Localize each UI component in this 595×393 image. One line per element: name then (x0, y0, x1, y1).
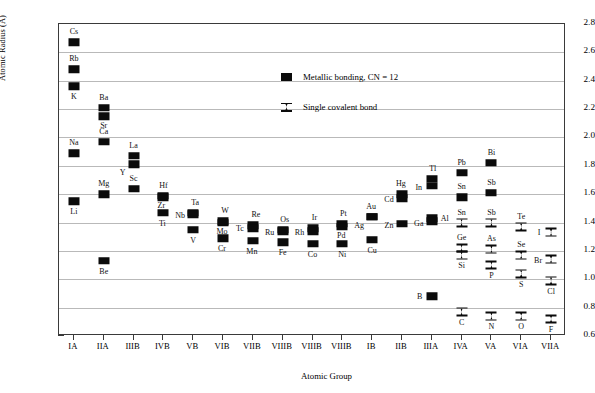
point-label-ru: Ru (265, 229, 274, 237)
data-point-sb (486, 189, 497, 197)
data-point-zn (396, 220, 407, 228)
point-label-se: Se (517, 241, 525, 249)
filled-square-icon (98, 257, 109, 265)
point-label-te: Te (517, 213, 525, 221)
data-point-sc (128, 185, 139, 193)
x-tick-label-ia-0: IA (68, 341, 77, 351)
point-label-ge: Ge (457, 234, 466, 242)
point-label-ca: Ca (99, 128, 108, 136)
data-point-li (68, 198, 79, 206)
point-label-al: Al (441, 215, 449, 223)
point-label-rh: Rh (295, 229, 304, 237)
x-tick-label-viia-16: VIIA (541, 341, 559, 351)
bowtie-icon (516, 251, 527, 260)
x-tick-mark (282, 335, 283, 340)
data-point-ag (367, 213, 378, 221)
point-label-br: Br (534, 257, 542, 265)
point-label-cu: Cu (367, 247, 376, 255)
data-point-sn (456, 218, 467, 227)
gridline (59, 137, 564, 138)
filled-square-icon (218, 234, 229, 242)
y-tick-mark (58, 335, 64, 336)
bowtie-icon (546, 276, 557, 285)
point-label-be: Be (99, 268, 108, 276)
filled-square-icon (307, 240, 318, 248)
filled-square-icon (247, 237, 258, 245)
point-label-na: Na (69, 139, 78, 147)
data-point-mo (218, 219, 229, 227)
filled-square-icon (367, 236, 378, 244)
x-tick-mark (133, 335, 134, 340)
data-point-f (546, 314, 557, 323)
data-point-tc (247, 224, 258, 232)
point-label-sb: Sb (487, 209, 495, 217)
point-label-v: V (190, 237, 196, 245)
point-label-re: Re (251, 211, 260, 219)
filled-square-icon (158, 193, 169, 201)
point-label-pd: Pd (337, 232, 345, 240)
bowtie-icon (546, 255, 557, 264)
data-point-k (68, 83, 79, 91)
data-point-b (426, 293, 437, 301)
filled-square-icon (337, 223, 348, 231)
point-label-mn: Mn (246, 248, 257, 256)
bowtie-icon (486, 245, 497, 254)
point-label-b: B (417, 293, 422, 301)
x-tick-mark (73, 335, 74, 340)
x-tick-label-viiib-7: VIIIB (271, 341, 292, 351)
point-label-in: In (415, 184, 422, 192)
data-point-nb (188, 210, 199, 218)
bowtie-icon (516, 312, 527, 321)
x-tick-mark (431, 335, 432, 340)
data-point-si (456, 251, 467, 260)
data-point-n (486, 312, 497, 321)
data-point-in (426, 182, 437, 190)
data-point-br (546, 255, 557, 264)
point-label-mg: Mg (98, 180, 109, 188)
filled-square-icon (337, 240, 348, 248)
data-point-o (516, 312, 527, 321)
data-point-na (68, 149, 79, 157)
data-point-pd (337, 223, 348, 231)
data-point-c (456, 307, 467, 316)
x-axis-title: Atomic Group (0, 371, 595, 381)
x-tick-label-ib-10: IB (367, 341, 376, 351)
gridline (59, 52, 564, 53)
point-label-pb: Pb (457, 159, 465, 167)
x-tick-label-iiia-12: IIIA (423, 341, 438, 351)
data-point-rb (68, 66, 79, 74)
bowtie-icon (516, 222, 527, 231)
filled-square-icon (128, 185, 139, 193)
x-tick-mark (490, 335, 491, 340)
point-label-cl: Cl (547, 288, 555, 296)
point-label-ni: Ni (338, 251, 346, 259)
x-tick-label-va-14: VA (485, 341, 496, 351)
bowtie-icon (546, 314, 557, 323)
point-label-nb: Nb (175, 212, 185, 220)
point-label-sb: Sb (487, 179, 495, 187)
filled-square-icon (98, 138, 109, 146)
legend-label-metallic: Metallic bonding, CN = 12 (303, 72, 398, 82)
point-label-zn: Zn (385, 222, 394, 230)
filled-square-icon (68, 39, 79, 47)
bowtie-icon (486, 218, 497, 227)
plot-area: CsRbKNaLiBaSrCaMgBeLaYScHfZrTiTaNbVWMoCr… (58, 23, 565, 335)
point-label-au: Au (366, 203, 376, 211)
filled-square-icon (396, 195, 407, 203)
x-tick-label-viiib-8: VIIIB (301, 341, 322, 351)
gridline (59, 308, 564, 309)
x-tick-mark (312, 335, 313, 340)
point-label-sn: Sn (457, 183, 465, 191)
filled-square-icon (158, 209, 169, 217)
x-tick-mark (550, 335, 551, 340)
data-point-bi (486, 159, 497, 167)
data-point-as (486, 245, 497, 254)
point-label-si: Si (458, 262, 465, 270)
x-tick-label-iib-11: IIB (395, 341, 406, 351)
point-label-ag: Ag (354, 222, 364, 230)
x-tick-mark (461, 335, 462, 340)
filled-square-icon (277, 227, 288, 235)
data-point-sb (486, 218, 497, 227)
filled-square-icon (456, 193, 467, 201)
bowtie-icon (456, 307, 467, 316)
